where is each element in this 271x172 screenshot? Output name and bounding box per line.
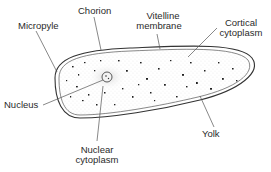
vitelline-membrane-outline <box>59 49 250 115</box>
label-vitelline-membrane-line2: membrane <box>133 20 185 31</box>
label-yolk: Yolk <box>202 128 220 139</box>
label-micropyle: Micropyle <box>18 20 59 31</box>
label-nucleus: Nucleus <box>4 99 38 110</box>
label-nuclear-cytoplasm-line2: cytoplasm <box>70 154 124 165</box>
label-cortical-cytoplasm-line2: cytoplasm <box>216 27 266 38</box>
label-chorion: Chorion <box>78 5 111 16</box>
egg-diagram: Chorion Micropyle Vitelline membrane Cor… <box>0 0 271 172</box>
nucleus-shape <box>102 72 112 82</box>
